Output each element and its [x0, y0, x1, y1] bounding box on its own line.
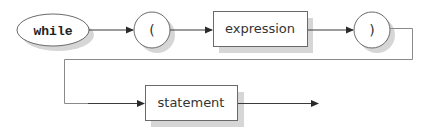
node-statement-label: statement	[158, 95, 225, 110]
node-expression-label: expression	[225, 21, 295, 36]
node-while: while	[17, 14, 94, 51]
node-rparen-label: )	[369, 22, 374, 38]
node-rparen: )	[354, 12, 395, 53]
while-syntax-diagram: while ( expression ) statement	[0, 0, 426, 132]
node-while-label: while	[33, 24, 72, 39]
node-expression: expression	[214, 12, 314, 54]
node-lparen: (	[134, 12, 175, 53]
node-statement: statement	[146, 86, 245, 128]
node-lparen-label: (	[149, 22, 154, 38]
